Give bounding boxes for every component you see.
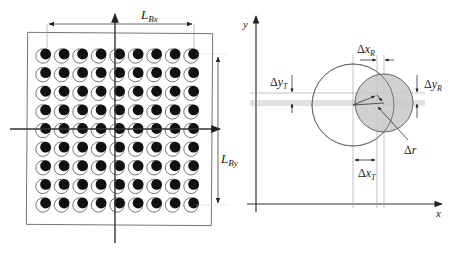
- ball: [128, 179, 143, 194]
- actual-ball-dot: [40, 67, 51, 78]
- dx-r-label: ΔxR: [357, 42, 375, 58]
- actual-ball-dot: [151, 104, 162, 115]
- actual-ball-dot: [77, 49, 88, 60]
- actual-ball-dot: [114, 160, 125, 171]
- actual-ball-dot: [59, 198, 70, 209]
- actual-ball-dot: [114, 49, 125, 60]
- ball: [165, 198, 180, 213]
- actual-ball-dot: [114, 86, 125, 97]
- ball-grid: [36, 49, 199, 213]
- actual-ball-dot: [96, 179, 107, 190]
- dr-label: Δr: [404, 143, 417, 157]
- ball: [147, 142, 162, 157]
- actual-ball-dot: [96, 198, 107, 209]
- actual-ball-dot: [188, 198, 199, 209]
- ball: [73, 179, 88, 194]
- actual-ball-dot: [59, 86, 70, 97]
- ball: [184, 104, 199, 119]
- actual-ball-dot: [77, 179, 88, 190]
- ball: [110, 123, 125, 138]
- ball: [91, 198, 106, 213]
- actual-ball-dot: [114, 104, 125, 115]
- actual-ball-dot: [170, 49, 181, 60]
- actual-ball-dot: [170, 179, 181, 190]
- x-axis-label: x: [435, 207, 441, 219]
- actual-ball-dot: [40, 142, 51, 153]
- actual-ball-dot: [96, 160, 107, 171]
- ball: [54, 104, 69, 119]
- ball: [184, 142, 199, 157]
- ball: [165, 160, 180, 175]
- ball: [36, 104, 51, 119]
- actual-ball-dot: [40, 49, 51, 60]
- actual-ball-dot: [151, 179, 162, 190]
- ball: [128, 86, 143, 101]
- actual-ball-dot: [170, 160, 181, 171]
- actual-ball-dot: [170, 86, 181, 97]
- actual-ball-dot: [96, 49, 107, 60]
- ball: [128, 123, 143, 138]
- ball: [147, 160, 162, 175]
- ball: [54, 123, 69, 138]
- dy-r-label: ΔyR: [424, 77, 442, 93]
- actual-ball-dot: [133, 67, 144, 78]
- actual-ball-dot: [188, 67, 199, 78]
- ball: [165, 179, 180, 194]
- ball: [54, 179, 69, 194]
- actual-ball-dot: [188, 86, 199, 97]
- ball: [147, 86, 162, 101]
- ball: [91, 104, 106, 119]
- ball: [147, 123, 162, 138]
- ball: [184, 67, 199, 82]
- actual-ball-dot: [188, 104, 199, 115]
- ball: [147, 67, 162, 82]
- y-axis-label: y: [242, 18, 248, 30]
- ball: [128, 142, 143, 157]
- ball: [36, 142, 51, 157]
- ball: [54, 86, 69, 101]
- ball: [36, 86, 51, 101]
- ball: [128, 49, 143, 64]
- ball: [165, 67, 180, 82]
- ball: [91, 160, 106, 175]
- lbx-label: LBx: [140, 7, 158, 24]
- actual-ball-dot: [59, 142, 70, 153]
- figure: LBx LBy y x: [0, 0, 453, 253]
- ball: [54, 67, 69, 82]
- actual-ball-dot: [77, 142, 88, 153]
- actual-ball-dot: [77, 67, 88, 78]
- ball: [184, 123, 199, 138]
- right-panel: y x Δr ΔxR ΔyR: [242, 16, 442, 219]
- actual-ball-dot: [77, 160, 88, 171]
- actual-ball-dot: [151, 86, 162, 97]
- ball: [147, 104, 162, 119]
- ball: [110, 142, 125, 157]
- ball: [110, 179, 125, 194]
- actual-ball-dot: [133, 179, 144, 190]
- ball: [91, 123, 106, 138]
- actual-ball-dot: [40, 104, 51, 115]
- actual-ball-dot: [151, 160, 162, 171]
- ball: [91, 67, 106, 82]
- ball: [184, 179, 199, 194]
- ball: [128, 198, 143, 213]
- actual-ball-dot: [77, 104, 88, 115]
- actual-ball-dot: [59, 160, 70, 171]
- dx-t-label: ΔxT: [358, 166, 376, 182]
- lby-label: LBy: [220, 151, 238, 168]
- actual-ball-dot: [170, 67, 181, 78]
- ball: [165, 49, 180, 64]
- actual-ball-dot: [151, 198, 162, 209]
- actual-ball-dot: [133, 104, 144, 115]
- actual-ball-dot: [151, 49, 162, 60]
- actual-ball-dot: [133, 198, 144, 209]
- ball: [147, 179, 162, 194]
- ball: [36, 198, 51, 213]
- ball: [147, 198, 162, 213]
- ball: [110, 49, 125, 64]
- ball: [91, 86, 106, 101]
- actual-ball-dot: [59, 179, 70, 190]
- actual-ball-dot: [59, 49, 70, 60]
- actual-ball-dot: [151, 67, 162, 78]
- actual-ball-dot: [188, 179, 199, 190]
